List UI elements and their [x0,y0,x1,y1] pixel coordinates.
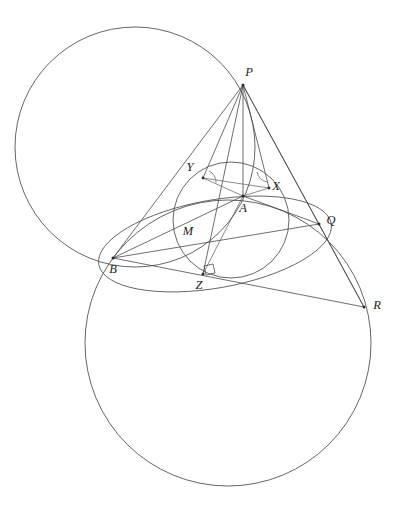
circle-through-bmzq [91,180,339,308]
point-label-x: X [271,179,281,193]
segment-p-y [203,85,243,178]
segment-p-x [243,85,269,188]
point-label-z: Z [196,278,204,292]
point-label-q: Q [326,213,335,227]
point-label-a: A [238,201,247,215]
circle-lower-large [85,200,371,486]
point-label-y: Y [187,160,196,174]
segment-a-q [243,196,319,224]
point-label-p: P [244,65,253,79]
point-label-m: M [182,224,194,238]
geometry-figure: P Q R A B M X Y Z [0,0,403,516]
segment-b-a [113,196,243,258]
circle-upper-large [15,27,255,267]
vertex-dot-z [202,273,205,276]
vertex-dot-p [242,84,245,87]
point-label-r: R [372,298,381,312]
vertex-dot-q [318,223,321,226]
vertex-dot-a [241,194,244,197]
segment-b-r [113,258,364,307]
segment-y-x [203,178,269,188]
segment-b-q [113,224,319,258]
segment-q-r [319,224,364,307]
vertex-dot-y [202,177,205,180]
vertex-dot-b [112,257,115,260]
geometry-canvas: P Q R A B M X Y Z [0,0,403,516]
vertex-dot-x [268,187,271,190]
point-label-b: B [109,262,117,276]
segment-p-b [113,85,243,258]
segment-p-z [203,85,243,274]
segment-a-z [203,196,243,274]
vertex-dot-r [363,306,366,309]
